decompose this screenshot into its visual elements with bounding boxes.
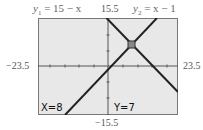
line-y1 xyxy=(107,18,179,92)
x-readout: X=8 xyxy=(41,103,63,113)
y-readout: Y=7 xyxy=(114,103,135,113)
xmin-label: −23.5 xyxy=(6,61,29,71)
equation-y2-label: y2 = x − 1 xyxy=(133,3,176,19)
ymin-label: −15.5 xyxy=(95,118,118,128)
intersection-cursor-icon xyxy=(128,41,135,48)
eq1-rest: = 15 − x xyxy=(41,2,81,14)
equation-y1-label: y1 = 15 − x xyxy=(33,3,81,19)
graph-plot xyxy=(38,18,178,115)
xmax-label: 23.5 xyxy=(183,61,201,71)
ymax-label: 15.5 xyxy=(101,4,119,14)
eq2-rest: = x − 1 xyxy=(141,2,175,14)
